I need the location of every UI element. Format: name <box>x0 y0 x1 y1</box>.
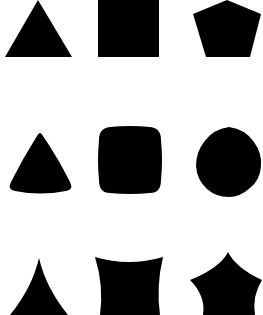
triangle-shape <box>5 0 72 57</box>
concave-triangle-shape <box>10 258 68 315</box>
concave-pentagon-shape <box>190 252 262 315</box>
rounded-triangle-shape <box>10 133 72 194</box>
concave-square-shape <box>95 257 163 315</box>
rounded-pentagon-shape <box>196 127 261 197</box>
rounded-square-shape <box>98 126 162 194</box>
square-shape <box>98 0 159 57</box>
shape-grid <box>0 0 263 315</box>
pentagon-shape <box>193 0 261 57</box>
